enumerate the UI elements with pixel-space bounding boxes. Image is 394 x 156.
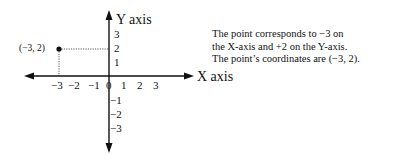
- description-line-1: The point corresponds to −3 on: [212, 28, 360, 41]
- x-tick-1: 1: [121, 80, 127, 91]
- y-axis-down-arrow-icon: [106, 143, 113, 153]
- y-tick-1: 1: [114, 57, 120, 68]
- y-axis-up-arrow-icon: [106, 10, 113, 20]
- y-axis-label: Y axis: [116, 13, 152, 27]
- description-line-3: The point’s coordinates are (−3, 2).: [212, 53, 360, 66]
- x-axis-right-arrow-icon: [184, 73, 194, 80]
- x-tick-2: 2: [137, 80, 143, 91]
- x-tick-0: 0: [106, 80, 112, 91]
- y-tick-2: 2: [114, 43, 120, 54]
- description-line-2: the X-axis and +2 on the Y-axis.: [212, 41, 360, 54]
- x-tick-neg3: −3: [51, 80, 63, 91]
- description: The point corresponds to −3 on the X-axi…: [212, 28, 360, 66]
- plotted-point: [56, 46, 61, 51]
- x-tick-neg1: −1: [88, 80, 100, 91]
- y-tick-3: 3: [114, 29, 120, 40]
- x-axis-label: X axis: [197, 70, 233, 84]
- y-tick-neg3: −3: [110, 123, 122, 134]
- y-tick-neg2: −2: [110, 109, 122, 120]
- x-axis-left-arrow-icon: [24, 73, 34, 80]
- x-tick-3: 3: [153, 80, 159, 91]
- x-tick-neg2: −2: [68, 80, 80, 91]
- y-tick-neg1: −1: [110, 95, 122, 106]
- point-label: (−3, 2): [19, 44, 45, 54]
